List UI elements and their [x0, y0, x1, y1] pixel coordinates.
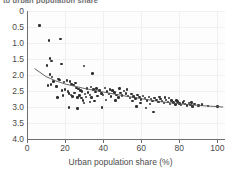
- x-axis-line: [27, 139, 225, 140]
- x-tick-label: 40: [88, 143, 118, 153]
- y-tick-label: 3.5: [0, 119, 24, 128]
- y-tick-label: 3.0: [0, 103, 24, 112]
- chart-figure: to urban population share 4.03.53.02.52.…: [0, 0, 241, 174]
- x-axis-tick: [217, 140, 218, 143]
- x-tick-label: 100: [202, 143, 232, 153]
- x-axis-tick: [65, 140, 66, 143]
- y-tick-label: 2.0: [0, 71, 24, 80]
- trend-line: [27, 11, 225, 139]
- y-tick-label: 0: [0, 7, 24, 16]
- y-tick-label: 1.5: [0, 55, 24, 64]
- x-tick-label: 60: [126, 143, 156, 153]
- y-tick-label: 2.5: [0, 87, 24, 96]
- plot-area: [27, 11, 225, 139]
- y-tick-label: 0.5: [0, 23, 24, 32]
- y-tick-label: 1.0: [0, 39, 24, 48]
- y-axis-line: [27, 11, 28, 140]
- x-axis-title: Urban population share (%): [0, 157, 241, 167]
- x-tick-label: 80: [164, 143, 194, 153]
- x-axis-tick: [141, 140, 142, 143]
- x-axis-tick: [103, 140, 104, 143]
- x-axis-tick: [27, 140, 28, 143]
- x-axis-tick: [179, 140, 180, 143]
- x-tick-label: 0: [12, 143, 42, 153]
- x-tick-label: 20: [50, 143, 80, 153]
